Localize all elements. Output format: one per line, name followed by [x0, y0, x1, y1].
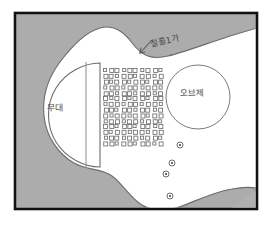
floor-plan-drawing — [0, 0, 271, 225]
object-label: 오브제 — [180, 89, 204, 98]
sketch-canvas: 무대 오브제 절흘1가 — [0, 0, 271, 225]
stage-label: 무대 — [47, 104, 63, 113]
